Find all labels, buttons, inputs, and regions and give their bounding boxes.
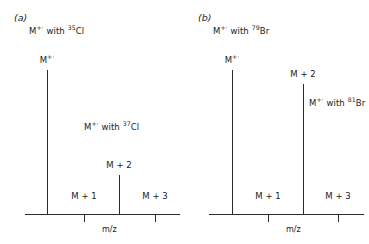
panel-b-axis-tick-m3 (338, 214, 339, 222)
panel-a-axis-tick-m3 (155, 214, 156, 222)
panel-a-peak-annotation: M+· with 37Cl (84, 123, 139, 132)
panel-a-annot-charge: +· (91, 120, 98, 127)
panel-a: (a) M+· with 35Cl M+· M + 1 M + 2 M + 3 … (0, 0, 185, 244)
panel-b-header-isotope-mass: 79 (252, 24, 260, 31)
panel-b-peak-label-m-charge: +· (232, 53, 239, 60)
panel-a-annot-isotope-element: Cl (131, 122, 140, 132)
panel-a-header-charge: +· (36, 24, 43, 31)
panel-b-peak-label-m3: M + 3 (325, 192, 350, 201)
panel-b-axis-label: m/z (286, 226, 301, 234)
panel-a-peak-label-m1: M + 1 (71, 192, 96, 201)
panel-b-header-annotation: M+· with 79Br (213, 27, 269, 36)
panel-b-peak-m2 (303, 84, 304, 214)
panel-a-header-isotope-element: Cl (76, 26, 85, 36)
panel-b-axis-line (209, 214, 364, 215)
panel-b-letter: (b) (198, 13, 211, 23)
panel-b-header-with: with (230, 26, 248, 36)
panel-b-peak-label-m2: M + 2 (290, 70, 315, 79)
panel-a-axis-tick-m1 (84, 214, 85, 222)
panel-b-peak-m (232, 70, 233, 214)
panel-a-peak-label-m-charge: +· (47, 53, 54, 60)
panel-b-axis-tick-m1 (268, 214, 269, 222)
panel-a-peak-label-m: M+· (40, 56, 55, 65)
panel-b-annot-isotope-mass: 81 (348, 96, 356, 103)
mass-spectrum-figure: (a) M+· with 35Cl M+· M + 1 M + 2 M + 3 … (0, 0, 369, 244)
panel-a-letter: (a) (14, 13, 27, 23)
panel-b-annot-isotope-element: Br (356, 98, 366, 108)
panel-a-peak-m2 (119, 175, 120, 214)
panel-a-peak-label-m2: M + 2 (106, 161, 131, 170)
panel-a-annot-with: with (101, 122, 119, 132)
panel-a-header-with: with (46, 26, 64, 36)
panel-a-axis-label: m/z (102, 226, 117, 234)
panel-a-header-isotope-mass: 35 (68, 24, 76, 31)
panel-a-peak-label-m3: M + 3 (142, 192, 167, 201)
panel-b-peak-annotation: M+· with 81Br (309, 99, 365, 108)
panel-a-header-annotation: M+· with 35Cl (29, 27, 84, 36)
panel-b-annot-with: with (326, 98, 344, 108)
panel-b-header-charge: +· (220, 24, 227, 31)
panel-b-peak-label-m: M+· (225, 56, 240, 65)
panel-b-header-isotope-element: Br (260, 26, 270, 36)
panel-a-annot-isotope-mass: 37 (123, 120, 131, 127)
panel-b-peak-label-m1: M + 1 (255, 192, 280, 201)
panel-b: (b) M+· with 79Br M+· M + 1 M + 2 M + 3 … (184, 0, 369, 244)
panel-a-peak-m (47, 70, 48, 214)
panel-b-annot-charge: +· (316, 96, 323, 103)
panel-a-axis-line (25, 214, 180, 215)
